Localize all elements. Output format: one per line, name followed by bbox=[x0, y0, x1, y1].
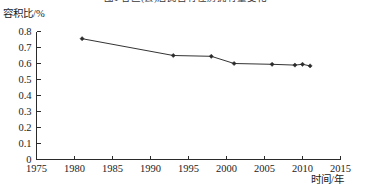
chart-figure: 图1 各区(县)居民自有住房拥有量变化 容积比/% 时间/年 00.10.20.… bbox=[0, 0, 371, 189]
x-tick-label: 1975 bbox=[17, 163, 57, 174]
y-tick-label: 0.6 bbox=[0, 58, 32, 69]
x-tick-label: 1995 bbox=[169, 163, 209, 174]
data-point-marker bbox=[300, 62, 304, 66]
x-tick-label: 1985 bbox=[93, 163, 133, 174]
data-point-marker bbox=[308, 64, 312, 68]
x-tick-label: 1990 bbox=[131, 163, 171, 174]
y-tick-label: 0.1 bbox=[0, 138, 32, 149]
axes-group bbox=[37, 32, 341, 160]
x-tick-label: 2005 bbox=[245, 163, 285, 174]
x-tick-label: 2000 bbox=[207, 163, 247, 174]
plot-area: 00.10.20.30.40.50.60.70.8 19751980198519… bbox=[0, 0, 371, 189]
y-tick-label: 0.7 bbox=[0, 42, 32, 53]
plot-canvas bbox=[0, 0, 371, 189]
data-point-marker bbox=[171, 53, 175, 57]
y-tick-label: 0.2 bbox=[0, 122, 32, 133]
y-tick-label: 0.8 bbox=[0, 26, 32, 37]
y-tick-marks bbox=[37, 32, 41, 160]
y-tick-label: 0.3 bbox=[0, 106, 32, 117]
x-tick-label: 2015 bbox=[321, 163, 361, 174]
x-tick-label: 2010 bbox=[283, 163, 323, 174]
data-line-series-0 bbox=[82, 39, 310, 66]
data-point-marker bbox=[270, 62, 274, 66]
data-point-marker bbox=[80, 37, 84, 41]
data-point-marker bbox=[293, 63, 297, 67]
data-markers-series-0 bbox=[80, 37, 312, 68]
data-point-marker bbox=[209, 54, 213, 58]
x-tick-marks bbox=[75, 156, 341, 160]
x-tick-label: 1980 bbox=[55, 163, 95, 174]
data-point-marker bbox=[232, 61, 236, 65]
y-tick-label: 0.5 bbox=[0, 74, 32, 85]
y-tick-label: 0.4 bbox=[0, 90, 32, 101]
